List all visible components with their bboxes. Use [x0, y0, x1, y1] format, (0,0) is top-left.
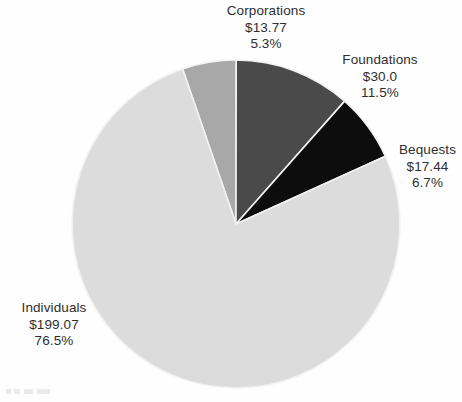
pie-label-foundations: Foundations $30.0 11.5%: [325, 52, 435, 102]
pie-label-foundations-name: Foundations: [325, 52, 435, 69]
pie-label-individuals-percent: 76.5%: [2, 333, 106, 350]
pie-label-foundations-percent: 11.5%: [325, 85, 435, 102]
pie-label-bequests-value: $17.44: [393, 159, 462, 176]
pie-label-individuals-name: Individuals: [2, 300, 106, 317]
pie-label-corporations: Corporations $13.77 5.3%: [211, 3, 321, 53]
pie-label-individuals: Individuals $199.07 76.5%: [2, 300, 106, 350]
pie-label-individuals-value: $199.07: [2, 317, 106, 334]
pie-label-bequests-name: Bequests: [393, 142, 462, 159]
pie-label-foundations-value: $30.0: [325, 69, 435, 86]
scan-artifact: [6, 389, 52, 394]
pie-label-corporations-percent: 5.3%: [211, 36, 321, 53]
pie-label-corporations-name: Corporations: [211, 3, 321, 20]
pie-label-bequests-percent: 6.7%: [393, 175, 462, 192]
pie-slice-group: [72, 60, 400, 388]
pie-label-bequests: Bequests $17.44 6.7%: [393, 142, 462, 192]
pie-chart: Corporations $13.77 5.3% Foundations $30…: [0, 0, 462, 402]
pie-label-corporations-value: $13.77: [211, 20, 321, 37]
